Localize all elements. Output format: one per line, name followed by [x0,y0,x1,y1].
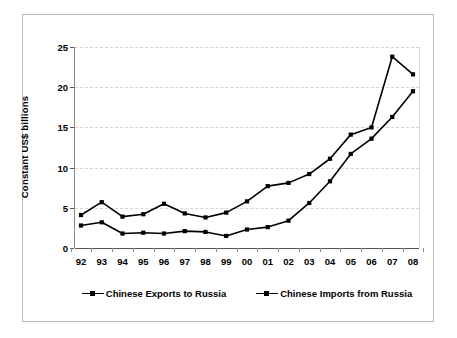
legend-label-imports: Chinese Imports from Russia [280,288,412,299]
x-tick-mark-01 [257,248,258,252]
y-tick-label-10: 10 [28,162,68,173]
chart-legend: Chinese Exports to Russia Chinese Import… [74,288,420,299]
x-tick-mark-05 [340,248,341,252]
x-tick-mark-02 [278,248,279,252]
legend-label-exports: Chinese Exports to Russia [106,288,226,299]
x-tick-mark-08 [403,248,404,252]
legend-line-marker-icon [82,289,104,298]
gridline-20 [75,87,419,88]
gridline-5 [75,208,419,209]
y-tick-label-0: 0 [28,243,68,254]
x-tick-mark-95 [133,248,134,252]
x-tick-mark-06 [361,248,362,252]
plot-area [74,47,420,248]
y-tick-label-25: 25 [28,42,68,53]
x-tick-mark-93 [91,248,92,252]
x-tick-mark-07 [382,248,383,252]
x-tick-mark-03 [299,248,300,252]
legend-item-imports: Chinese Imports from Russia [256,288,412,299]
gridline-0 [75,248,419,249]
chart-figure: Constant US$ billions 0510152025 9293949… [0,0,457,338]
x-tick-mark-end [423,248,424,252]
x-tick-mark-99 [216,248,217,252]
y-tick-label-20: 20 [28,82,68,93]
x-tick-mark-98 [195,248,196,252]
x-tick-mark-97 [174,248,175,252]
legend-line-marker-icon [256,289,278,298]
x-tick-label-08: 08 [398,256,428,267]
gridline-10 [75,168,419,169]
y-axis-title: Constant US$ billions [19,96,30,198]
y-tick-label-15: 15 [28,122,68,133]
gridline-15 [75,127,419,128]
x-tick-mark-94 [112,248,113,252]
y-tick-label-5: 5 [28,202,68,213]
x-tick-mark-96 [154,248,155,252]
x-tick-mark-00 [237,248,238,252]
x-tick-mark-04 [320,248,321,252]
x-tick-mark-92 [71,248,72,252]
legend-item-exports: Chinese Exports to Russia [82,288,226,299]
gridline-25 [75,47,419,48]
